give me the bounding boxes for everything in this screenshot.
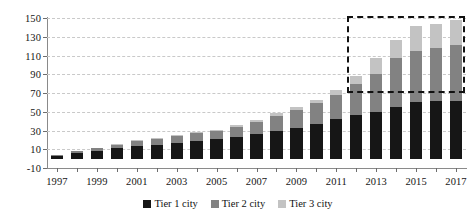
bar-stack [390,40,402,159]
legend-item[interactable]: Tier 1 city [143,198,197,209]
x-axis-label: 2011 [326,176,347,187]
bar-stack [350,76,362,159]
x-tick-mark [97,168,98,172]
y-tick-mark [43,18,47,19]
bar-segment-tier-2-city [230,127,242,137]
gridline [47,18,466,19]
bar-segment-tier-2-city [390,58,402,107]
bar-stack [370,58,382,158]
bar-segment-tier-2-city [71,151,83,153]
bar-segment-tier-1-city [310,124,322,159]
bar-segment-tier-1-city [430,101,442,158]
y-axis-label: 50 [30,106,41,117]
legend-label: Tier 1 city [154,198,197,209]
bar-segment-tier-1-city [131,146,143,159]
x-axis-label: 2001 [126,176,147,187]
x-tick-mark [77,168,78,172]
bar-segment-tier-3-city [450,20,462,45]
legend-swatch-icon [143,200,151,208]
bar-stack [111,144,123,159]
gridline [47,112,466,113]
y-tick-mark [43,168,47,169]
bar-segment-tier-1-city [290,128,302,159]
bar-segment-tier-2-city [310,103,322,124]
stacked-bar-chart: 1501301109070503010-10 19971999200120032… [0,0,476,223]
legend-swatch-icon [278,200,286,208]
x-axis-label: 2013 [366,176,387,187]
x-tick-mark [117,168,118,172]
bar-segment-tier-1-city [230,137,242,159]
legend-label: Tier 2 city [222,198,265,209]
x-tick-mark [356,168,357,172]
x-tick-mark [177,168,178,172]
bar-segment-tier-3-city [270,113,282,116]
bar-stack [51,155,63,159]
bar-segment-tier-3-city [330,90,342,95]
bar-segment-tier-3-city [230,125,242,127]
bar-stack [230,125,242,159]
y-axis-label: 90 [30,69,41,80]
bar-segment-tier-1-city [450,101,462,159]
legend-item[interactable]: Tier 3 city [278,198,332,209]
x-tick-mark [237,168,238,172]
bar-segment-tier-1-city [91,151,103,159]
bar-stack [71,151,83,159]
y-tick-mark [43,93,47,94]
x-axis-label: 2007 [246,176,267,187]
chart-legend: Tier 1 cityTier 2 cityTier 3 city [0,198,476,209]
bar-stack [250,120,262,158]
y-tick-mark [43,37,47,38]
bar-segment-tier-3-city [151,138,163,139]
bar-segment-tier-1-city [111,148,123,158]
bar-segment-tier-3-city [390,40,402,59]
bar-segment-tier-2-city [111,145,123,149]
y-axis-label: 70 [30,88,41,99]
y-tick-mark [43,149,47,150]
y-axis-label: 10 [30,144,41,155]
bar-segment-tier-2-city [171,136,183,143]
bar-segment-tier-1-city [370,112,382,159]
bar-segment-tier-3-city [111,144,123,145]
x-tick-mark [57,168,58,172]
bar-stack [91,148,103,158]
x-tick-mark [257,168,258,172]
bar-stack [450,20,462,159]
bar-segment-tier-3-city [370,58,382,74]
x-tick-mark [376,168,377,172]
bar-segment-tier-3-city [210,130,222,131]
y-axis-label: 130 [25,31,41,42]
bar-segment-tier-3-city [430,24,442,48]
x-tick-mark [137,168,138,172]
bar-segment-tier-1-city [210,139,222,159]
gridline [47,93,466,94]
bar-stack [270,113,282,159]
y-tick-mark [43,56,47,57]
bar-segment-tier-3-city [190,132,202,133]
bar-segment-tier-2-city [430,48,442,101]
legend-item[interactable]: Tier 2 city [211,198,265,209]
bar-stack [310,100,322,159]
bar-stack [210,130,222,159]
x-axis-label: 1999 [86,176,107,187]
y-axis-label: 110 [25,50,41,61]
bar-stack [290,107,302,159]
bar-segment-tier-2-city [51,155,63,156]
x-axis-label: 2017 [445,176,466,187]
bar-segment-tier-3-city [171,135,183,136]
x-tick-mark [456,168,457,172]
bar-segment-tier-2-city [151,139,163,145]
x-tick-mark [197,168,198,172]
x-tick-mark [336,168,337,172]
bar-stack [410,26,422,158]
gridline [47,37,466,38]
bar-segment-tier-3-city [410,26,422,50]
bar-segment-tier-2-city [190,133,202,141]
bar-stack [330,90,342,158]
bar-segment-tier-2-city [210,131,222,139]
bar-segment-tier-2-city [250,122,262,134]
bar-segment-tier-2-city [450,45,462,100]
bar-stack [430,24,442,159]
bar-segment-tier-1-city [250,134,262,158]
bar-segment-tier-1-city [410,102,422,158]
bar-segment-tier-2-city [330,95,342,119]
